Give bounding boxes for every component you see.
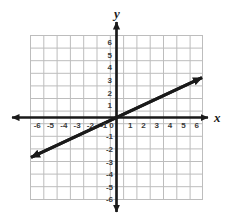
x-tick-label-2: 2 xyxy=(141,121,146,130)
y-tick-label--2: -2 xyxy=(106,145,114,154)
coordinate-plane-figure: -6 -5 -4 -3 -2 -1 0 1 2 3 4 5 6 6 5 4 3 … xyxy=(0,0,232,224)
x-tick-label--5: -5 xyxy=(47,121,55,130)
y-tick-label-5: 5 xyxy=(108,51,113,60)
x-tick-label-5: 5 xyxy=(181,121,186,130)
y-tick-label-4: 4 xyxy=(108,63,113,72)
graph-canvas: -6 -5 -4 -3 -2 -1 0 1 2 3 4 5 6 6 5 4 3 … xyxy=(0,0,232,224)
y-axis-label: y xyxy=(112,6,120,21)
origin-label: 0 xyxy=(109,121,114,130)
x-tick-label--6: -6 xyxy=(34,121,42,130)
x-tick-label--3: -3 xyxy=(74,121,82,130)
x-tick-label-4: 4 xyxy=(168,121,173,130)
x-axis-label: x xyxy=(213,110,221,125)
x-tick-label-1: 1 xyxy=(128,121,133,130)
y-tick-label--1: -1 xyxy=(106,132,114,141)
x-tick-label--4: -4 xyxy=(60,121,68,130)
y-tick-label--4: -4 xyxy=(106,170,114,179)
y-tick-label-1: 1 xyxy=(108,101,113,110)
x-tick-label--2: -2 xyxy=(87,121,95,130)
x-tick-label-6: 6 xyxy=(194,121,199,130)
x-tick-label--1: -1 xyxy=(100,121,108,130)
y-tick-label--6: -6 xyxy=(106,195,114,204)
y-tick-label-2: 2 xyxy=(108,89,113,98)
y-tick-label-6: 6 xyxy=(108,38,113,47)
x-tick-label-3: 3 xyxy=(155,121,160,130)
y-tick-label-3: 3 xyxy=(108,76,113,85)
y-tick-label--5: -5 xyxy=(106,183,114,192)
y-tick-label--3: -3 xyxy=(106,158,114,167)
